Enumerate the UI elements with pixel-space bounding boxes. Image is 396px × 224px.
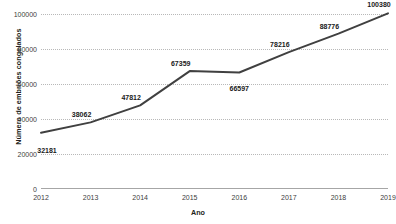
- x-axis-tick-label: 2012: [33, 194, 49, 201]
- x-axis-tick-label: 2015: [182, 194, 198, 201]
- data-point-label: 100380: [367, 1, 390, 8]
- y-axis-tick-label: 60000: [18, 81, 37, 88]
- y-axis-tick-label: 80000: [18, 46, 37, 53]
- plot-area: 020000400006000080000100000 201220132014…: [41, 14, 388, 189]
- data-point-label: 78216: [270, 41, 289, 48]
- x-axis-tick-label: 2017: [281, 194, 297, 201]
- x-axis-tick-label: 2016: [231, 194, 247, 201]
- data-point-label: 32181: [37, 147, 56, 154]
- x-axis-tick-label: 2014: [132, 194, 148, 201]
- x-axis-tick-label: 2019: [380, 194, 396, 201]
- data-point-label: 67359: [171, 60, 190, 67]
- y-axis-tick-label: 0: [33, 186, 37, 193]
- data-point-label: 38062: [72, 111, 91, 118]
- x-axis-tick-label: 2013: [83, 194, 99, 201]
- y-axis-tick-label: 20000: [18, 151, 37, 158]
- x-axis-tick-label: 2018: [331, 194, 347, 201]
- line-chart-figure: Número de embriões congelados 0200004000…: [0, 0, 396, 224]
- y-axis-tick-label: 40000: [18, 116, 37, 123]
- data-point-label: 47812: [121, 94, 140, 101]
- data-point-label: 66597: [230, 85, 249, 92]
- y-axis-tick-label: 100000: [14, 11, 37, 18]
- data-series-line: [41, 14, 388, 189]
- x-axis-title: Ano: [0, 208, 396, 217]
- data-point-label: 88776: [320, 23, 339, 30]
